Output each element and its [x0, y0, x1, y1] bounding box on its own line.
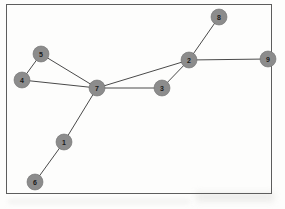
- nodes-layer: 123456789: [14, 9, 276, 190]
- graph-node[interactable]: 8: [211, 9, 227, 25]
- graph-node[interactable]: 5: [33, 46, 49, 62]
- graph-node[interactable]: 6: [27, 174, 43, 190]
- graph-node-circle[interactable]: [56, 134, 72, 150]
- graph-edge: [189, 59, 268, 60]
- edges-layer: [22, 17, 268, 182]
- graph-node-circle[interactable]: [181, 52, 197, 68]
- graph-node[interactable]: 3: [154, 80, 170, 96]
- graph-node-circle[interactable]: [14, 72, 30, 88]
- graph-edge: [64, 88, 97, 142]
- screenshot-root: 123456789: [0, 0, 285, 209]
- graph-node-circle[interactable]: [211, 9, 227, 25]
- graph-node[interactable]: 2: [181, 52, 197, 68]
- graph-node-circle[interactable]: [27, 174, 43, 190]
- graph-canvas: 123456789: [0, 0, 285, 209]
- graph-node[interactable]: 7: [89, 80, 105, 96]
- graph-node-circle[interactable]: [89, 80, 105, 96]
- graph-node[interactable]: 1: [56, 134, 72, 150]
- graph-node-circle[interactable]: [33, 46, 49, 62]
- graph-node-circle[interactable]: [154, 80, 170, 96]
- graph-node[interactable]: 9: [260, 51, 276, 67]
- graph-node-circle[interactable]: [260, 51, 276, 67]
- graph-node[interactable]: 4: [14, 72, 30, 88]
